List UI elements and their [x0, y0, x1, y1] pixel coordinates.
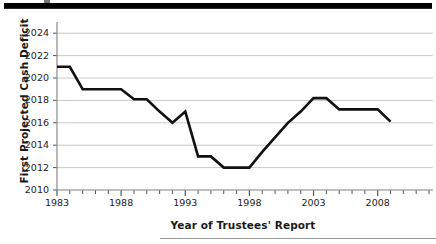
x-axis-title: Year of Trustees' Report: [57, 219, 429, 231]
x-tick-label: 1983: [33, 198, 81, 208]
y-tick-label: 2014: [9, 140, 49, 150]
x-tick-label: 1998: [225, 198, 273, 208]
x-tick-label: 2008: [354, 198, 402, 208]
y-tick-label: 2010: [9, 185, 49, 195]
y-tick-label: 2012: [9, 163, 49, 173]
y-tick-label: 2016: [9, 118, 49, 128]
y-tick-label: 2018: [9, 95, 49, 105]
y-tick-label: 2022: [9, 51, 49, 61]
x-tick-label: 1993: [161, 198, 209, 208]
chart-figure: First Projected Cash Deficit 20102012201…: [0, 0, 436, 244]
y-tick-label: 2020: [9, 73, 49, 83]
y-tick-label: 2024: [9, 28, 49, 38]
x-tick-marks-group: [57, 190, 433, 196]
data-series-line: [57, 67, 391, 168]
x-tick-label: 1988: [97, 198, 145, 208]
bottom-divider-rule: [160, 238, 436, 239]
x-tick-label: 2003: [290, 198, 338, 208]
